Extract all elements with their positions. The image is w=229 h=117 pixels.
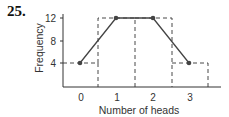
x-tick-label-0: 0 <box>78 92 84 103</box>
bar-0 <box>63 63 98 87</box>
data-point-3 <box>187 61 192 66</box>
x-tick-label-1: 1 <box>114 92 120 103</box>
data-point-1 <box>114 16 119 21</box>
y-tick-label-8: 8 <box>50 36 56 47</box>
frequency-polygon-line <box>80 18 189 63</box>
data-point-2 <box>151 16 156 21</box>
y-tick-label-4: 4 <box>50 58 56 69</box>
y-axis-title: Frequency <box>33 22 45 72</box>
y-tick-label-12: 12 <box>45 13 57 24</box>
data-point-0 <box>78 61 83 66</box>
bar-2 <box>135 18 172 87</box>
histogram-bars <box>63 18 208 87</box>
x-tick-label-3: 3 <box>187 92 193 103</box>
x-axis-title: Number of heads <box>99 104 180 116</box>
bar-3 <box>172 63 208 87</box>
frequency-chart: 12 8 4 Frequency 0 1 2 3 Number of heads <box>0 0 229 117</box>
bar-1 <box>98 18 135 87</box>
x-tick-label-2: 2 <box>150 92 156 103</box>
